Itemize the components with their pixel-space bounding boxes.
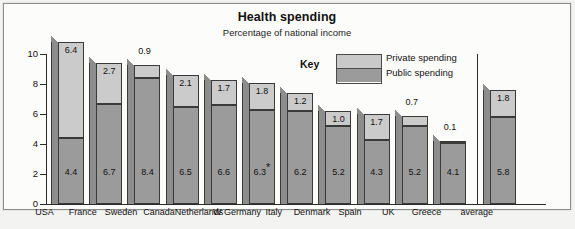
bar-top-slant [89, 56, 96, 63]
bar-side-fill [318, 111, 325, 204]
bar-top-slant [166, 68, 173, 75]
bar-average: 5.81.8 [483, 44, 516, 204]
bar-side-face [204, 73, 211, 205]
bar-france: 6.72.7 [89, 44, 122, 204]
bar-top-slant [127, 58, 134, 65]
bar-side-fill [395, 116, 402, 205]
bar-side-fill [51, 42, 58, 204]
bar-italy: 6.21.2 [280, 44, 313, 204]
bar-segment-public [211, 105, 237, 204]
bar-uk: 5.20.7 [395, 44, 428, 204]
bar-denmark: 5.21.0 [318, 44, 351, 204]
bar-value-private: 1.2 [287, 96, 313, 106]
bar-spain: 4.31.7 [357, 44, 390, 204]
bar-side-face [89, 56, 96, 204]
bar-segment-public [287, 111, 313, 204]
y-tick-0 [40, 204, 47, 205]
bar-side-fill [127, 65, 134, 205]
bar-front [173, 75, 199, 204]
chart-figure: Health spending Percentage of national i… [0, 0, 575, 229]
bar-value-private: 1.7 [364, 117, 390, 127]
bar-value-public: 6.2 [287, 167, 313, 177]
bar-front [287, 93, 313, 204]
bar-side-face [51, 35, 58, 204]
bar-value-public: 4.3 [364, 167, 390, 177]
bar-netherlands: 6.61.7 [204, 44, 237, 204]
bar-segment-private [58, 42, 84, 138]
y-tick-2 [40, 174, 47, 175]
bar-value-private: 1.8 [249, 86, 275, 96]
bar-greece: 4.10.1 [433, 44, 466, 204]
bar-value-public: 6.5 [173, 167, 199, 177]
bar-segment-private [440, 141, 466, 143]
chart-subtitle: Percentage of national income [4, 27, 570, 38]
bar-value-public: 4.4 [58, 167, 84, 177]
bar-side-fill [357, 114, 364, 204]
bar-top-slant [280, 86, 287, 93]
bar-value-private: 0.7 [395, 97, 429, 107]
bar-segment-public [249, 110, 275, 205]
bar-value-private: 1.8 [490, 93, 516, 103]
bar-segment-public [325, 126, 351, 204]
bar-sweden: 8.40.9 [127, 44, 160, 204]
bar-side-fill [483, 90, 490, 204]
bar-value-public: 4.1 [440, 167, 466, 177]
y-tick-label-2: 2 [24, 168, 38, 179]
bar-front [96, 63, 122, 204]
bar-side-fill [242, 83, 249, 205]
bar-value-private: 2.7 [96, 66, 122, 76]
bar-segment-public [173, 107, 199, 205]
bar-top-slant [51, 35, 58, 42]
bar-segment-public [96, 104, 122, 205]
bar-canada: 6.52.1 [166, 44, 199, 204]
bar-top-slant [204, 73, 211, 80]
bar-segment-public [402, 126, 428, 204]
bar-side-face [127, 58, 134, 205]
bar-front [490, 90, 516, 204]
bar-group: 4.46.46.72.78.40.96.52.16.61.76.3*1.86.2… [47, 44, 562, 205]
bar-side-fill [89, 63, 96, 204]
bar-side-face [433, 134, 440, 204]
y-tick-6 [40, 114, 47, 115]
bar-side-fill [166, 75, 173, 204]
average-separator [477, 54, 478, 205]
x-tick-label-greece: Greece [404, 207, 449, 217]
y-tick-8 [40, 84, 47, 85]
bar-side-fill [280, 93, 287, 204]
bar-top-slant [318, 104, 325, 111]
bar-value-public: 6.3* [249, 161, 275, 177]
y-tick-label-4: 4 [24, 138, 38, 149]
y-tick-label-10: 10 [24, 48, 38, 59]
bar-side-face [395, 109, 402, 205]
y-tick-4 [40, 144, 47, 145]
bar-top-slant [357, 107, 364, 114]
bar-value-public: 6.6 [211, 167, 237, 177]
bar-value-private: 6.4 [58, 45, 84, 55]
bar-side-face [280, 86, 287, 204]
bar-value-public: 6.7 [96, 167, 122, 177]
bar-side-face [483, 83, 490, 204]
bar-side-face [357, 107, 364, 204]
bar-value-public: 5.8 [490, 167, 516, 177]
plot-area: 0246810 4.46.46.72.78.40.96.52.16.61.76.… [24, 44, 562, 206]
bar-usa: 4.46.4 [51, 44, 84, 204]
bar-front [58, 42, 84, 204]
bar-front [249, 83, 275, 205]
bar-top-slant [433, 134, 440, 141]
bar-front [364, 114, 390, 204]
bar-segment-public [134, 78, 160, 204]
bar-value-private: 2.1 [173, 78, 199, 88]
bar-side-face [242, 76, 249, 205]
bar-side-fill [433, 141, 440, 204]
bar-w-germany: 6.3*1.8 [242, 44, 275, 204]
y-tick-label-8: 8 [24, 78, 38, 89]
bar-top-slant [483, 83, 490, 90]
bar-top-slant [242, 76, 249, 83]
bar-segment-private [134, 65, 160, 79]
bar-value-public: 5.2 [325, 167, 351, 177]
bar-front [325, 111, 351, 204]
bar-front [134, 65, 160, 205]
bar-value-public: 8.4 [134, 167, 160, 177]
bar-side-fill [204, 80, 211, 205]
bar-side-face [318, 104, 325, 204]
